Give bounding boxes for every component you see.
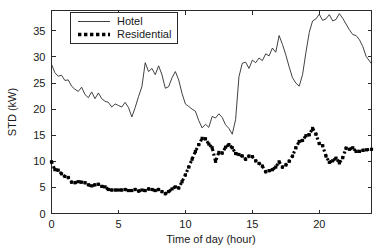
data-point-marker	[284, 163, 287, 166]
data-point-marker	[358, 150, 361, 153]
data-point-marker	[170, 187, 173, 190]
data-point-marker	[184, 173, 187, 176]
data-point-marker	[103, 185, 106, 188]
legend-label-residential: Residential	[117, 28, 171, 40]
data-point-marker	[63, 175, 66, 178]
data-point-marker	[167, 190, 170, 193]
y-axis-title: STD (kW)	[6, 88, 18, 136]
legend: Hotel Residential	[71, 13, 178, 44]
data-point-marker	[160, 190, 163, 193]
data-point-marker	[234, 152, 237, 155]
data-point-marker	[147, 187, 150, 190]
data-point-marker	[281, 165, 284, 168]
data-point-marker	[177, 186, 180, 189]
data-point-marker	[318, 142, 321, 145]
data-point-marker	[251, 155, 254, 158]
data-point-marker	[291, 155, 294, 158]
data-point-marker	[134, 188, 137, 191]
data-point-marker	[221, 151, 224, 154]
data-point-marker	[264, 170, 267, 173]
data-point-marker	[324, 155, 327, 158]
data-point-marker	[308, 133, 311, 136]
data-point-marker	[87, 183, 90, 186]
data-point-marker	[237, 153, 240, 156]
data-point-marker	[321, 144, 324, 147]
y-tick-label: 5	[39, 181, 45, 193]
data-point-marker	[127, 189, 130, 192]
data-point-marker	[164, 192, 167, 195]
data-point-marker	[57, 169, 60, 172]
data-point-marker	[274, 165, 277, 168]
data-point-marker	[117, 188, 120, 191]
data-point-marker	[348, 148, 351, 151]
x-tick-label: 5	[115, 218, 121, 230]
data-point-marker	[217, 151, 220, 154]
y-tick-label: 35	[33, 25, 45, 37]
data-point-marker	[231, 146, 234, 149]
data-point-marker	[120, 188, 123, 191]
data-point-marker	[194, 150, 197, 153]
data-point-marker	[77, 180, 80, 183]
data-point-marker	[254, 159, 257, 162]
x-tick-label: 0	[48, 218, 54, 230]
x-tick-label: 20	[313, 218, 325, 230]
data-point-marker	[100, 185, 103, 188]
data-point-marker	[355, 150, 358, 153]
data-point-marker	[370, 148, 373, 151]
plot-background	[0, 0, 391, 250]
data-point-marker	[267, 169, 270, 172]
data-point-marker	[328, 161, 331, 164]
data-point-marker	[261, 164, 264, 167]
data-point-marker	[190, 158, 193, 161]
data-point-marker	[201, 137, 204, 140]
data-point-marker	[365, 148, 368, 151]
data-point-marker	[107, 188, 110, 191]
data-point-marker	[241, 155, 244, 158]
data-point-marker	[314, 133, 317, 136]
data-point-marker	[334, 157, 337, 160]
data-point-marker	[90, 184, 93, 187]
data-point-marker	[114, 188, 117, 191]
data-point-marker	[278, 160, 281, 163]
data-point-marker	[80, 181, 83, 184]
data-point-marker	[140, 188, 143, 191]
data-point-marker	[197, 143, 200, 146]
data-point-marker	[294, 146, 297, 149]
data-point-marker	[311, 127, 314, 130]
data-point-marker	[244, 158, 247, 161]
data-point-marker	[211, 146, 214, 149]
data-point-marker	[97, 183, 100, 186]
data-point-marker	[67, 176, 70, 179]
data-point-marker	[298, 140, 301, 143]
data-point-marker	[351, 146, 354, 149]
data-point-marker	[110, 188, 113, 191]
data-point-marker	[361, 149, 364, 152]
data-point-marker	[174, 185, 177, 188]
data-point-marker	[130, 189, 133, 192]
data-point-marker	[288, 160, 291, 163]
legend-label-hotel: Hotel	[117, 15, 143, 27]
data-point-marker	[227, 143, 230, 146]
x-axis-title: Time of day (hour)	[166, 233, 255, 245]
data-point-marker	[341, 156, 344, 159]
data-point-marker	[344, 147, 347, 150]
y-tick-label: 30	[33, 51, 45, 63]
data-point-marker	[144, 189, 147, 192]
data-point-marker	[180, 180, 183, 183]
data-point-marker	[154, 189, 157, 192]
data-point-marker	[224, 146, 227, 149]
data-point-marker	[53, 168, 56, 171]
x-tick-label: 10	[179, 218, 191, 230]
data-point-marker	[157, 188, 160, 191]
y-tick-label: 10	[33, 155, 45, 167]
x-tick-label: 15	[246, 218, 258, 230]
data-point-marker	[338, 161, 341, 164]
y-tick-label: 20	[33, 103, 45, 115]
data-point-marker	[187, 165, 190, 168]
data-point-marker	[73, 181, 76, 184]
data-point-marker	[214, 160, 217, 163]
data-point-marker	[70, 181, 73, 184]
data-point-marker	[124, 188, 127, 191]
data-point-marker	[331, 159, 334, 162]
data-point-marker	[301, 139, 304, 142]
